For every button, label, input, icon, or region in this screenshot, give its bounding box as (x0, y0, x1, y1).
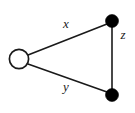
edge-label-z: z (119, 27, 125, 42)
graph-figure: x y z (0, 0, 135, 113)
node-bottom-right (106, 89, 119, 102)
graph-canvas: x y z (0, 0, 135, 113)
edge-label-y: y (61, 79, 69, 94)
node-top-right (106, 15, 119, 28)
edge-label-x: x (62, 16, 69, 31)
node-left-open (9, 49, 28, 68)
